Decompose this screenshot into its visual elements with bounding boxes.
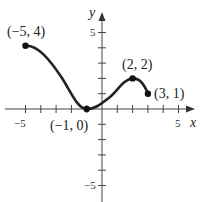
y-axis-label: y [87,5,96,20]
point-label-3-1: (3, 1) [154,86,185,102]
point-neg1-0 [84,106,90,112]
function-graph: −5 5 5 −5 x y (−5, 4) (−1, 0) (2, 2) (3,… [0,0,202,202]
point-2-2 [129,75,135,81]
point-label-neg5-4: (−5, 4) [7,24,46,40]
y-axis-arrow-icon [99,12,106,21]
x-axis [5,105,195,113]
point-3-1 [145,91,151,97]
x-axis-arrow-icon [186,106,195,113]
function-curve [26,46,148,109]
x-tick-label-min: −5 [14,117,26,129]
x-tick-label-max: 5 [175,117,181,129]
y-tick-label-max: 5 [90,26,96,38]
x-axis-label: x [189,115,197,130]
point-label-2-2: (2, 2) [122,57,153,73]
y-tick-label-min: −5 [84,179,96,191]
point-label-neg1-0: (−1, 0) [50,118,89,134]
point-neg5-4 [22,43,28,49]
y-axis [98,12,106,202]
